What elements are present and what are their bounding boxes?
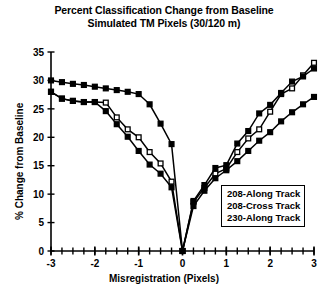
data-point xyxy=(301,102,306,107)
data-point xyxy=(224,168,229,173)
data-point xyxy=(136,135,141,140)
data-point xyxy=(246,136,251,141)
x-tick-label: 3 xyxy=(311,258,317,269)
chart-figure: Percent Classification Change from Basel… xyxy=(0,0,328,302)
y-tick-label: 0 xyxy=(38,246,44,257)
data-point xyxy=(191,204,196,209)
data-point xyxy=(290,110,295,115)
legend-item-2: 230-Along Track xyxy=(227,212,300,224)
data-point xyxy=(103,109,108,114)
data-point xyxy=(92,100,97,105)
y-tick-label: 35 xyxy=(33,47,45,58)
data-point xyxy=(257,138,262,143)
chart-legend: 208-Along Track 208-Cross Track 230-Alon… xyxy=(221,185,305,227)
data-point xyxy=(81,100,86,105)
data-point xyxy=(312,66,317,71)
data-point xyxy=(92,84,97,89)
plot-area: 05101520253035-3-2-10123 xyxy=(0,0,328,302)
data-point xyxy=(279,91,284,96)
x-axis-label: Misregistration (Pixels) xyxy=(0,273,328,284)
y-tick-label: 5 xyxy=(38,217,44,228)
data-point xyxy=(158,171,163,176)
legend-item-0: 208-Along Track xyxy=(227,188,300,200)
x-tick-label: 0 xyxy=(180,258,186,269)
data-point xyxy=(49,78,54,83)
data-point xyxy=(49,89,54,94)
data-point xyxy=(246,149,251,154)
data-point xyxy=(147,162,152,167)
data-point xyxy=(202,188,207,193)
data-point xyxy=(213,176,218,181)
x-tick-label: 2 xyxy=(267,258,273,269)
data-point xyxy=(268,109,273,114)
y-tick-label: 25 xyxy=(33,104,45,115)
data-point xyxy=(180,249,185,254)
y-axis-label: % Change from Baseline xyxy=(14,102,25,219)
data-point xyxy=(158,121,163,126)
data-point xyxy=(158,161,163,166)
data-point xyxy=(290,79,295,84)
data-point xyxy=(257,127,262,132)
series-line-2 xyxy=(51,92,314,251)
data-point xyxy=(169,142,174,147)
y-tick-label: 30 xyxy=(33,75,45,86)
data-point xyxy=(125,134,130,139)
data-point xyxy=(136,149,141,154)
data-point xyxy=(224,163,229,168)
data-point xyxy=(235,150,240,155)
data-point xyxy=(169,185,174,190)
data-point xyxy=(312,60,317,65)
data-point xyxy=(246,129,251,134)
data-point xyxy=(114,122,119,127)
data-point xyxy=(312,95,317,100)
legend-item-1: 208-Cross Track xyxy=(227,200,300,212)
data-point xyxy=(125,89,130,94)
data-point xyxy=(235,141,240,146)
data-point xyxy=(301,74,306,79)
data-point xyxy=(235,159,240,164)
data-point xyxy=(103,100,108,105)
x-tick-label: -2 xyxy=(90,258,99,269)
data-point xyxy=(147,150,152,155)
y-tick-label: 15 xyxy=(33,160,45,171)
data-point xyxy=(147,102,152,107)
data-point xyxy=(71,98,76,103)
data-point xyxy=(169,179,174,184)
data-point xyxy=(268,102,273,107)
data-point xyxy=(114,115,119,120)
data-point xyxy=(268,130,273,135)
data-point xyxy=(202,183,207,188)
data-point xyxy=(60,80,65,85)
data-point xyxy=(114,88,119,93)
data-point xyxy=(125,127,130,132)
data-point xyxy=(279,119,284,124)
data-point xyxy=(136,92,141,97)
x-tick-label: -1 xyxy=(134,258,143,269)
x-tick-label: 1 xyxy=(224,258,230,269)
y-tick-label: 10 xyxy=(33,189,45,200)
y-tick-label: 20 xyxy=(33,132,45,143)
data-point xyxy=(81,83,86,88)
data-point xyxy=(103,86,108,91)
data-point xyxy=(290,86,295,91)
data-point xyxy=(60,96,65,101)
x-tick-label: -3 xyxy=(47,258,56,269)
data-point xyxy=(213,166,218,171)
data-point xyxy=(71,81,76,86)
data-point xyxy=(257,111,262,116)
